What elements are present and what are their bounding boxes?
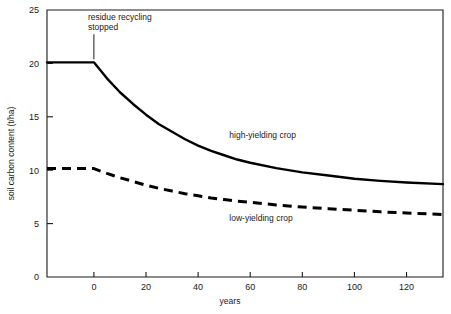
x-tick-label: 80 <box>297 282 307 292</box>
y-tick-label: 10 <box>29 166 39 176</box>
x-tick-label: 120 <box>399 282 414 292</box>
soil-carbon-line-chart: 020406080100120 0510152025 high-yielding… <box>0 0 451 314</box>
x-tick-label: 60 <box>245 282 255 292</box>
x-axis-title: years <box>220 296 241 306</box>
series-label-high-yielding: high-yielding crop <box>229 130 296 140</box>
y-tick-label: 20 <box>29 59 39 69</box>
y-tick-label: 0 <box>34 272 39 282</box>
y-axis-title: soil carbon content (t/ha) <box>6 107 16 201</box>
x-tick-label: 0 <box>91 282 96 292</box>
annotation-line-1: residue recycling <box>88 12 152 22</box>
y-tick-label: 25 <box>29 5 39 15</box>
x-tick-label: 100 <box>347 282 362 292</box>
series-label-low-yielding: low-yielding crop <box>229 213 293 223</box>
chart-background <box>0 0 451 314</box>
annotation-line-2: stopped <box>88 22 119 32</box>
chart-figure: 020406080100120 0510152025 high-yielding… <box>0 0 451 314</box>
x-tick-label: 40 <box>193 282 203 292</box>
y-tick-label: 15 <box>29 112 39 122</box>
y-tick-label: 5 <box>34 219 39 229</box>
x-tick-label: 20 <box>141 282 151 292</box>
